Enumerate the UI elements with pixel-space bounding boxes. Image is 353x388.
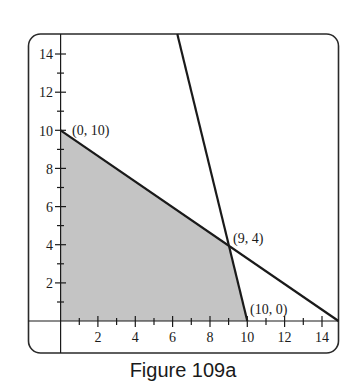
y-tick-10: 10 (39, 124, 53, 139)
label-point-0-10: (0, 10) (72, 123, 110, 139)
x-tick-12: 12 (278, 330, 292, 345)
x-tick-labels: 2 4 6 8 10 12 14 (94, 330, 329, 345)
x-tick-4: 4 (132, 330, 139, 345)
x-tick-14: 14 (315, 330, 329, 345)
x-tick-2: 2 (94, 330, 101, 345)
x-tick-10: 10 (240, 330, 254, 345)
x-tick-6: 6 (169, 330, 176, 345)
y-tick-12: 12 (39, 85, 53, 100)
y-tick-6: 6 (46, 200, 53, 215)
label-point-10-0: (10, 0) (250, 302, 288, 318)
feasible-region-chart: 2 4 6 8 10 12 14 2 4 6 8 10 12 14 (0, 10… (0, 0, 353, 388)
label-point-9-4: (9, 4) (233, 231, 264, 247)
figure-caption: Figure 109a (0, 359, 353, 382)
y-tick-4: 4 (46, 238, 53, 253)
y-tick-labels: 2 4 6 8 10 12 14 (39, 47, 53, 291)
y-tick-8: 8 (46, 162, 53, 177)
shaded-feasible-region (61, 130, 248, 321)
x-tick-8: 8 (207, 330, 214, 345)
y-tick-14: 14 (39, 47, 53, 62)
y-tick-2: 2 (46, 276, 53, 291)
